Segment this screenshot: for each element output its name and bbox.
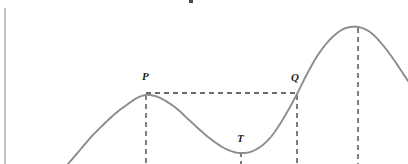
point-label-q: Q — [291, 72, 299, 83]
point-label-t: T — [237, 133, 244, 144]
graph-figure: P Q T — [0, 0, 408, 164]
point-label-p: P — [142, 71, 149, 82]
graph-canvas — [0, 0, 408, 164]
